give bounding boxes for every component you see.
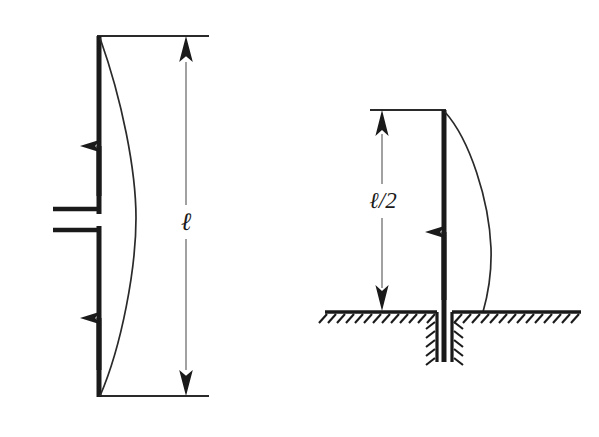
- left-dimension-label: ℓ: [181, 208, 192, 235]
- figure-svg: ℓ: [0, 0, 599, 437]
- column-buckling-figure: ℓ: [0, 0, 599, 437]
- right-dimension-label: ℓ/2: [369, 188, 396, 213]
- figure-background: [0, 0, 599, 437]
